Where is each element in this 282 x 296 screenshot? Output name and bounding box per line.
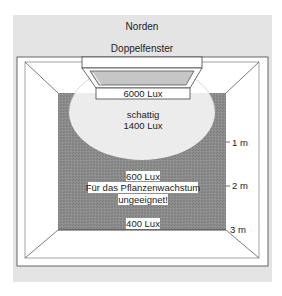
- distance-3m: 3 m: [230, 224, 246, 235]
- room-light-diagram: Norden Doppelfenster 6000 Lux schattig 1…: [0, 0, 282, 296]
- plant-growth-label: Für das Pflanzenwachstum: [86, 182, 201, 193]
- direction-label: Norden: [126, 21, 159, 32]
- lux-1400-label: 1400 Lux: [123, 120, 162, 131]
- lux-6000-label: 6000 Lux: [123, 88, 162, 99]
- shade-label: schattig: [127, 109, 160, 120]
- lux-400-label: 400 Lux: [126, 218, 160, 229]
- window-frame: [82, 57, 202, 68]
- distance-1m: 1 m: [232, 137, 248, 148]
- distance-2m: 2 m: [232, 180, 248, 191]
- window-label: Doppelfenster: [111, 43, 174, 54]
- window-glass: [90, 71, 194, 85]
- lux-600-label: 600 Lux: [126, 171, 160, 182]
- unsuitable-label: ungeeignet!: [118, 194, 168, 205]
